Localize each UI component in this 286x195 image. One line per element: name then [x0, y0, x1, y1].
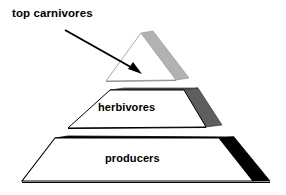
- tier-top-carnivores: [106, 31, 189, 82]
- arrow-shaft: [65, 30, 136, 70]
- energy-pyramid-figure: top carnivores herbivores producers: [0, 0, 286, 195]
- tier-label-herbivores: herbivores: [98, 101, 155, 113]
- pyramid-diagram: [0, 0, 286, 195]
- tier-label-top-carnivores: top carnivores: [12, 7, 93, 19]
- tier-label-producers: producers: [105, 152, 160, 164]
